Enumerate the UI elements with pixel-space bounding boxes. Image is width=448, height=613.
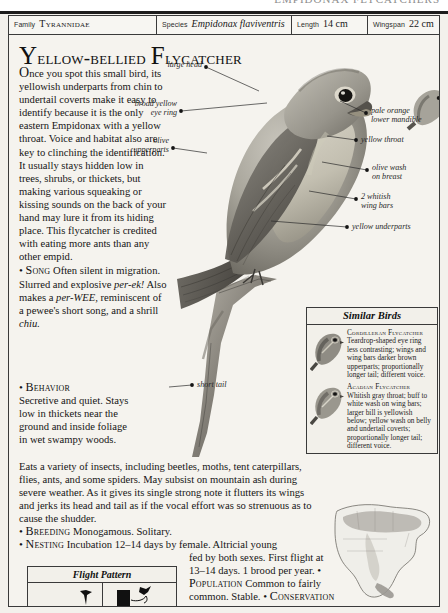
song-call-3: chiu. [19, 318, 40, 329]
behavior-paragraph: • Behavior Secretive and quiet. Stays lo… [19, 381, 131, 446]
flight-pattern-title: Flight Pattern [28, 567, 176, 583]
page-body-frame: large head broad yellow eye ring olive u… [8, 35, 440, 607]
acadian-flycatcher-thumbnail [310, 383, 344, 425]
title-rest-2: lycatcher [165, 47, 242, 68]
song-paragraph: • Song Often silent in migration. Slurre… [19, 264, 167, 329]
similar-bird-description: Whitish gray throat; buff to white wash … [347, 391, 431, 450]
intro-dropcap: O [19, 65, 29, 80]
header-value-wingspan: 22 cm [409, 18, 434, 29]
callout-yellow-underparts-label: yellow underparts [352, 222, 411, 231]
song-call-1: per-ek! [114, 279, 144, 290]
flight-pattern-diagram [28, 583, 176, 607]
flight-pattern-box: Flight Pattern Weak fluttering flig [27, 566, 177, 607]
similar-bird-entry: Cordilleran Flycatcher Teardrop-shaped e… [307, 325, 437, 381]
similar-bird-text-block: Acadian Flycatcher Whitish gray throat; … [347, 383, 433, 450]
title-cap-2: F [151, 42, 165, 69]
conservation-bullet-icon: • [263, 590, 267, 602]
intro-text: Once you spot this small bird, its yello… [19, 66, 167, 263]
header-cell-species: Species Empidonax flaviventris [157, 16, 292, 34]
field-guide-page: EMPIDONAX FLYCATCHERS Family Tyrannidae … [0, 0, 448, 613]
diet-paragraph: Eats a variety of insects, including bee… [19, 460, 314, 525]
similar-bird-text-block: Cordilleran Flycatcher Teardrop-shaped e… [347, 329, 433, 379]
perch-sally-icon [117, 586, 157, 607]
header-key-length: Length [297, 21, 319, 28]
similar-bird-description: Teardrop-shaped eye ring less contrastin… [347, 336, 426, 379]
callout-lower-mandible: pale orange lower mandible [371, 106, 422, 125]
callout-wing-bars-line2: wing bars [361, 201, 393, 210]
nesting-bullet-icon: • [19, 538, 23, 550]
species-header-table: Family Tyrannidae Species Empidonax flav… [8, 15, 440, 35]
breeding-bullet-icon: • [19, 525, 23, 537]
title-rest-1: ellow-bellied [37, 47, 151, 68]
header-value-length: 14 cm [323, 18, 348, 29]
header-cell-wingspan: Wingspan 22 cm [368, 16, 439, 34]
callout-olive-wash-line1: olive wash [372, 163, 406, 172]
intro-body: nce you spot this small bird, its yellow… [19, 68, 166, 262]
cordilleran-flycatcher-thumbnail [310, 329, 344, 371]
population-bullet-icon: • [317, 564, 321, 576]
song-bullet-icon: • [19, 264, 23, 276]
callout-lower-mandible-line2: lower mandible [371, 115, 422, 124]
similar-birds-box: Similar Birds Cordilleran Flycatcher [306, 307, 438, 454]
callout-wing-bars-line1: 2 whitish [361, 192, 390, 201]
intro-paragraph: Once you spot this small bird, its yello… [19, 66, 167, 330]
conservation-text: Neotropical migrant. Occasionally parasi… [189, 604, 335, 607]
nesting-label: Nesting [26, 537, 65, 551]
right-tail-column: fed by both sexes. First flight at 13–14… [189, 551, 339, 607]
nesting-continuation: fed by both sexes. First flight at 13–14… [189, 552, 323, 576]
breeding-text: Monogamous. Solitary. [73, 526, 172, 537]
header-key-species: Species [162, 21, 188, 28]
callout-short-tail-label: short tail [197, 380, 226, 389]
callout-olive-wash-line2: on breast [372, 172, 402, 181]
behavior-text: Secretive and quiet. Stays low in thicke… [19, 395, 128, 445]
nesting-paragraph: • Nesting Incubation 12–14 days by femal… [19, 538, 324, 551]
header-key-wingspan: Wingspan [373, 21, 405, 28]
breeding-label: Breeding [26, 524, 71, 538]
population-label: Population [189, 576, 243, 590]
song-label: Song [26, 263, 51, 277]
callout-yellow-throat-label: yellow throat [361, 135, 404, 144]
song-call-2: per-WEE, [56, 292, 98, 303]
behavior-label: Behavior [26, 380, 71, 394]
callout-yellow-throat: yellow throat [361, 135, 404, 144]
similar-birds-title: Similar Birds [307, 308, 437, 325]
header-key-family: Family [14, 21, 35, 28]
header-value-species: Empidonax flaviventris [192, 18, 285, 29]
flying-bird-icon [78, 589, 94, 607]
nesting-text: Incubation 12–14 days by female. Altrici… [67, 539, 277, 550]
top-rule [0, 11, 448, 14]
header-value-family: Tyrannidae [39, 18, 90, 29]
callout-olive-wash: olive wash on breast [372, 163, 406, 182]
similar-bird-entry: Acadian Flycatcher Whitish gray throat; … [307, 381, 437, 452]
callout-wing-bars: 2 whitish wing bars [361, 192, 393, 211]
callout-short-tail: short tail [197, 380, 226, 389]
range-map [327, 499, 437, 604]
behavior-bullet-icon: • [19, 381, 23, 393]
header-cell-family: Family Tyrannidae [9, 16, 157, 34]
callout-yellow-underparts: yellow underparts [352, 222, 411, 231]
callout-lower-mandible-line1: pale orange [371, 106, 410, 115]
flight-diagram-right [102, 583, 176, 607]
running-head: EMPIDONAX FLYCATCHERS [274, 0, 440, 5]
diet-text: Eats a variety of insects, including bee… [19, 461, 312, 524]
conservation-label: Conservation [270, 589, 335, 603]
flight-diagram-left [28, 583, 102, 607]
header-cell-length: Length 14 cm [292, 16, 368, 34]
